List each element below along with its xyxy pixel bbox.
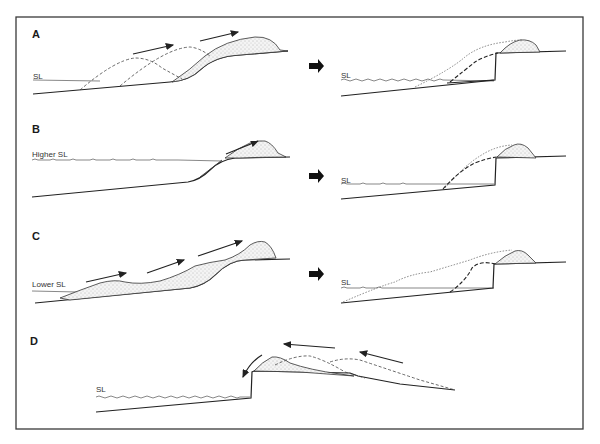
sea-level-label-c: Lower SL (32, 280, 66, 289)
ground-profile-eroded (341, 262, 566, 303)
sea-level-line (32, 291, 78, 292)
ground-profile-eroded (96, 371, 455, 412)
right-arrow-icon (309, 59, 324, 73)
sea-level-line (32, 159, 222, 161)
dune-sand (225, 141, 286, 158)
sea-level-line (341, 79, 494, 81)
former-dune-position (330, 359, 455, 390)
migration-arrow-icon (360, 352, 403, 363)
panel-a: A SL SL (32, 28, 566, 96)
ground-profile (32, 157, 290, 197)
sea-level-label-d: SL (96, 385, 106, 394)
panel-label-b: B (32, 123, 40, 135)
migration-arrow-icon (133, 45, 173, 54)
migration-arrow-icon (147, 260, 184, 273)
panel-d: D SL (30, 335, 455, 412)
dune-sand (172, 37, 288, 82)
panel-label-a: A (32, 28, 40, 40)
sea-level-line (341, 287, 494, 288)
dune-migration-diagram: A SL SL B Higher SL SL (0, 0, 600, 444)
panel-c: C Lower SL SL (32, 230, 566, 303)
migration-arrow-icon (198, 241, 242, 256)
right-arrow-icon (309, 169, 324, 183)
sea-level-label-a: SL (33, 72, 43, 81)
migration-arrow-icon (284, 344, 335, 348)
migration-arrow-icon (200, 32, 238, 41)
former-profile (450, 53, 498, 82)
right-arrow-icon (309, 267, 324, 281)
former-profile (450, 263, 495, 292)
ground-profile (33, 51, 288, 94)
sea-level-label-b: Higher SL (32, 150, 68, 159)
sea-level-line (33, 80, 100, 81)
sea-level-line (341, 183, 494, 184)
sea-level-label-c-after: SL (341, 278, 351, 287)
panel-b: B Higher SL SL (32, 123, 566, 199)
dune-sand (60, 241, 276, 300)
dune-sand (495, 251, 536, 265)
ground-profile-eroded (341, 51, 566, 96)
dune-slope (200, 160, 222, 177)
sea-level-label-a-after: SL (341, 71, 351, 80)
former-dune-outline (445, 145, 512, 188)
sea-level-line (96, 396, 250, 398)
panel-label-c: C (32, 230, 40, 242)
panel-label-d: D (30, 335, 38, 347)
